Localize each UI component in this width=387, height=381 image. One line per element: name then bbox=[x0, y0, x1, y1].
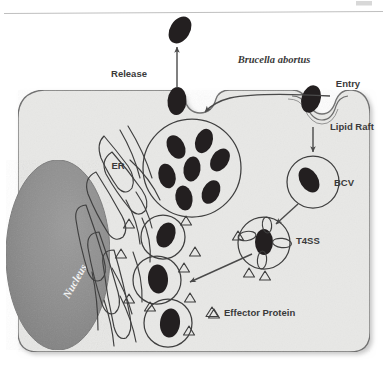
er-label: ER bbox=[111, 160, 124, 171]
top-right-mark bbox=[356, 1, 372, 6]
bcv-label: BCV bbox=[334, 177, 355, 188]
entry-label: Entry bbox=[336, 78, 361, 89]
release-label: Release bbox=[111, 68, 147, 79]
lipid-raft-label: Lipid Raft bbox=[330, 121, 375, 132]
nucleus-body bbox=[6, 160, 110, 350]
nucleus: Nucleus bbox=[6, 160, 110, 350]
t4ss-label: T4SS bbox=[296, 235, 320, 246]
legend-label: Effector Protein bbox=[224, 307, 295, 318]
organism-label: Brucella abortus bbox=[237, 54, 311, 65]
figure-canvas: Nucleus bbox=[0, 0, 387, 381]
brucella-trafficking-diagram: Nucleus bbox=[0, 0, 387, 381]
